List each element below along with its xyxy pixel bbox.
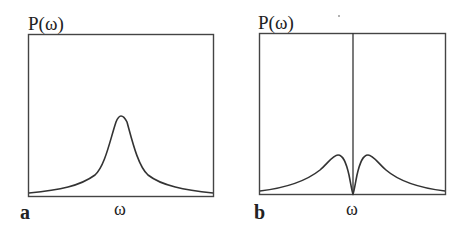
panel-a-label: a [20,201,30,223]
figure: P(ω) ω a P(ω) ω b [0,0,462,227]
panel-b-ylabel: P(ω) [258,12,294,34]
panel-a-curve [29,116,213,193]
panel-b: P(ω) ω b [254,12,446,223]
panel-b-xlabel: ω [346,199,358,219]
panel-b-label: b [254,201,265,223]
panel-a-xlabel: ω [114,199,126,219]
panel-a-ylabel: P(ω) [28,13,64,35]
panel-b-stray-mark [338,15,340,17]
panel-a: P(ω) ω a [20,13,214,223]
